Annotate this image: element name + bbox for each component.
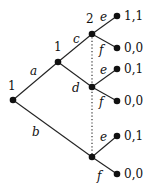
action-label-a: a [30,64,37,78]
action-label-f-top: f [98,43,106,57]
terminal-node [114,45,121,52]
payoff-label: 0,0 [124,167,143,181]
player2-node-d [89,84,96,91]
game-tree: 1 1 2 a b c d e f e f e f 1,1 0,0 0,1 0,… [0,0,152,191]
terminal-node [114,13,121,20]
payoff-label: 0,0 [124,94,143,108]
action-label-e-bot: e [100,130,107,144]
player-label-nc: 2 [86,12,94,26]
action-label-b: b [32,125,40,139]
action-label-d: d [72,81,80,95]
action-label-e-mid: e [100,63,107,77]
terminal-node [114,66,121,73]
player-label-root: 1 [8,79,16,93]
edge-f-bot [92,157,117,174]
terminal-node [114,98,121,105]
edge-f-top [92,34,117,48]
payoff-label: 1,1 [124,9,143,23]
action-label-e-top: e [100,10,107,24]
root-node [10,97,17,104]
terminal-node [114,171,121,178]
player2-node-b [89,154,96,161]
action-label-f-mid: f [98,95,106,109]
payoff-label: 0,1 [124,62,143,76]
action-label-c: c [73,32,80,46]
player1-node [55,59,62,66]
terminal-node [114,133,121,140]
action-label-f-bot: f [96,169,104,183]
edge-b [13,100,92,157]
payoff-label: 0,0 [124,41,143,55]
player2-node-c [89,31,96,38]
edge-f-mid [92,87,117,101]
player-label-n1: 1 [54,40,62,54]
payoff-label: 0,1 [124,129,143,143]
